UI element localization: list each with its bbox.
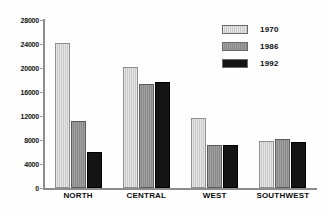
bar <box>123 67 138 188</box>
bar <box>207 145 222 188</box>
y-axis-tick-label: 8000 <box>24 137 39 144</box>
bar <box>55 43 70 188</box>
legend-label: 1992 <box>260 59 279 68</box>
x-axis-category-label: WEST <box>181 191 249 200</box>
legend-swatch <box>222 42 248 51</box>
bar <box>71 121 86 188</box>
bar <box>223 145 238 188</box>
legend-label: 1970 <box>260 25 279 34</box>
y-axis-tick-label: 24000 <box>21 41 39 48</box>
x-axis-category-label: CENTRAL <box>112 191 180 200</box>
legend-item: 1986 <box>222 39 279 53</box>
bar-chart: 0400080001200016000200002400028000 NORTH… <box>0 0 323 215</box>
legend-item: 1992 <box>222 56 279 70</box>
x-axis-category-label: NORTH <box>44 191 112 200</box>
y-axis-tick-label: 4000 <box>24 161 39 168</box>
bar <box>87 152 102 188</box>
bar <box>155 82 170 188</box>
y-axis-tick-label: 20000 <box>21 65 39 72</box>
bar <box>275 139 290 188</box>
legend-swatch <box>222 25 248 34</box>
x-axis-line <box>43 188 317 190</box>
bar-group <box>44 20 112 188</box>
legend-swatch <box>222 59 248 68</box>
chart-legend: 197019861992 <box>222 22 279 73</box>
y-axis-tick-label: 12000 <box>21 113 39 120</box>
bar <box>139 84 154 188</box>
legend-item: 1970 <box>222 22 279 36</box>
x-axis-category-label: SOUTHWEST <box>249 191 317 200</box>
bar-group <box>112 20 180 188</box>
y-axis-tick-label: 28000 <box>21 17 39 24</box>
y-axis-tick-label: 0 <box>35 185 39 192</box>
bar <box>191 118 206 188</box>
y-axis-tick-mark <box>40 188 44 189</box>
legend-label: 1986 <box>260 42 279 51</box>
bar <box>259 141 274 188</box>
y-axis-tick-label: 16000 <box>21 89 39 96</box>
bar <box>291 142 306 188</box>
